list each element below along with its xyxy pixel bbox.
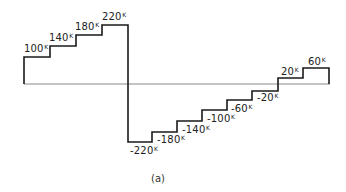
step-label-100k: 100K: [24, 44, 48, 54]
step-label-20k: 20K: [281, 67, 299, 77]
step-label-neg-140k: -140K: [182, 125, 210, 135]
step-label-180k: 180K: [75, 22, 99, 32]
step-label-neg-180k: -180K: [157, 135, 185, 145]
step-label-neg-220k: -220K: [130, 146, 158, 156]
step-label-220k: 220K: [102, 12, 126, 22]
figure-caption: (a): [151, 173, 165, 184]
staircase-waveform: [0, 0, 346, 192]
step-label-140k: 140K: [49, 33, 73, 43]
step-label-60k: 60K: [308, 57, 326, 67]
step-label-neg-60k: -60K: [231, 104, 253, 114]
step-label-neg-100k: -100K: [207, 114, 235, 124]
step-label-neg-20k: -20K: [257, 93, 279, 103]
